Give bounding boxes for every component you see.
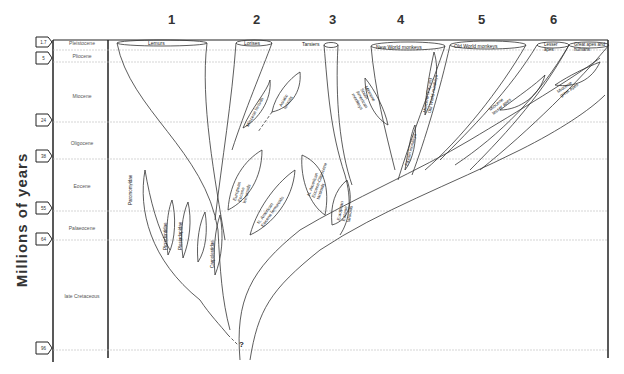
label-new-world-monkeys: New World monkeys: [376, 44, 422, 50]
epoch-late-cretaceous: late Cretaceous: [58, 293, 106, 299]
label-lorises: Lorises: [244, 40, 260, 46]
time-marker: 64: [36, 234, 51, 245]
epoch-oligocene: Oligocene: [58, 140, 106, 146]
time-marker: 24: [36, 115, 51, 126]
time-marker: 96: [36, 343, 51, 354]
epoch-eocene: Eocene: [58, 183, 106, 189]
epoch-palaeocene: Palaeocene: [58, 225, 106, 231]
epoch-pleistocene: Pleistocene: [58, 40, 106, 46]
epoch-miocene: Miocene: [58, 93, 106, 99]
unknown-origin-mark: ?: [239, 340, 244, 349]
label-plesiadapidae: Plesiadapidae: [178, 222, 183, 250]
epoch-pliocene: Pliocene: [58, 53, 106, 59]
label-lesser-apes: Lesser apes: [544, 42, 560, 52]
label-tarsiers: Tarsiers: [302, 41, 320, 47]
time-marker: 5: [36, 53, 51, 64]
label-lemurs: Lemurs: [148, 40, 165, 46]
time-marker-shapes: [0, 0, 60, 374]
time-marker: 38: [36, 151, 51, 162]
label-paromomyidae: Paromomyidae: [128, 175, 133, 205]
label-old-world-monkeys: Old World monkeys: [454, 43, 498, 49]
label-picrodontidae: Picrodontidae: [163, 222, 168, 250]
label-great-apes: Great apes and humans: [574, 42, 606, 52]
time-marker: 1.7: [36, 37, 51, 48]
label-carpolestidae: Carpolestidae: [210, 240, 215, 268]
time-marker: 55: [36, 203, 51, 214]
